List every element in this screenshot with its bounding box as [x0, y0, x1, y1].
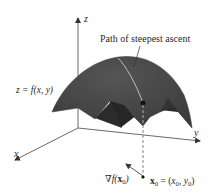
gradient-close: ) [126, 174, 129, 184]
surface-equation: z = f(x, y) [16, 86, 53, 96]
point-close: ) [191, 176, 194, 186]
surface-point [141, 101, 146, 106]
x-axis-label: x [14, 149, 18, 159]
y-axis-label: y [194, 128, 198, 138]
z-axis-label: z [84, 14, 88, 24]
path-caption: Path of steepest ascent [100, 34, 190, 44]
x-axis [15, 128, 78, 160]
steepest-ascent-diagram: z y x Path of steepest ascent z = f(x, y… [0, 0, 210, 193]
surface [52, 56, 192, 128]
point-eq: = ( [158, 176, 171, 186]
base-point-label: x0 = (x0, y0) [150, 177, 194, 188]
base-point [141, 175, 144, 178]
nabla-symbol: ∇ [105, 174, 112, 184]
gradient-label: ∇f(x0) [105, 175, 129, 186]
diagram-canvas [0, 0, 210, 193]
y-axis [78, 128, 200, 141]
